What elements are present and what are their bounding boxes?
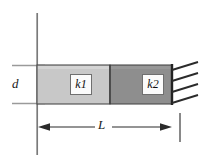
support-hatch-line-1	[172, 62, 198, 70]
segment-k1-top-highlight	[38, 66, 109, 69]
segment-k1-label-box: k1	[70, 74, 92, 95]
segment-k2-label-subscript: 2	[153, 77, 159, 92]
length-label-L: L	[98, 118, 105, 131]
composite-bar-figure: d L k1 k2	[0, 0, 208, 167]
segment-k1-label-subscript: 1	[81, 77, 87, 92]
support-hatch-line-3	[172, 84, 198, 92]
depth-label-d: d	[12, 77, 19, 90]
length-arrow-left-head	[38, 123, 50, 131]
segment-k2-label-box: k2	[142, 74, 164, 95]
segment-k2-top-highlight	[111, 66, 171, 69]
length-arrow-right-head	[160, 123, 172, 131]
length-dimension	[38, 113, 180, 142]
support-hatch-line-4	[172, 95, 198, 103]
figure-canvas	[0, 0, 208, 167]
fixed-support	[172, 62, 198, 105]
support-hatch-line-2	[172, 73, 198, 81]
